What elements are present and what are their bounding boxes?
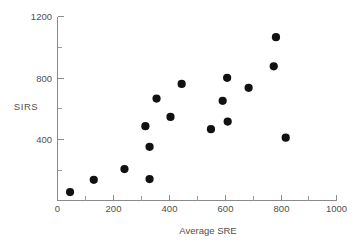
data-points-group [66,33,290,196]
plot-canvas: 1200 800 400 0 200 400 600 800 1000 Aver… [0,0,360,246]
x-tick-label-800: 800 [274,203,290,214]
data-point [207,125,215,133]
data-point [224,117,232,125]
data-point [219,97,227,105]
data-point [90,176,98,184]
data-point [166,113,174,121]
x-tick-label-400: 400 [162,203,178,214]
y-ticks-group: 1200 800 400 [31,11,64,171]
data-point [282,134,290,142]
data-point [145,175,153,183]
data-point [223,74,231,82]
x-ticks-group: 0 200 400 600 800 1000 [55,195,347,215]
data-point [245,84,253,92]
x-tick-label-200: 200 [106,203,122,214]
data-point [270,62,278,70]
x-tick-label-1000: 1000 [326,203,347,214]
y-tick-label-800: 800 [36,73,52,84]
y-tick-label-1200: 1200 [31,11,52,22]
axes-group [58,17,337,201]
data-point [66,188,74,196]
x-axis-title: Average SRE [179,225,236,236]
data-point [178,80,186,88]
y-tick-label-400: 400 [36,134,52,145]
y-axis-title: SIRS [14,101,39,112]
data-point [152,94,160,102]
data-point [272,33,280,41]
scatter-chart: 1200 800 400 0 200 400 600 800 1000 Aver… [0,0,360,246]
data-point [145,143,153,151]
x-tick-label-600: 600 [218,203,234,214]
data-point [141,122,149,130]
x-tick-label-0: 0 [55,203,60,214]
data-point [120,165,128,173]
